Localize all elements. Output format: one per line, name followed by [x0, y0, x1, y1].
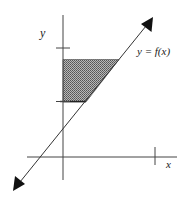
function-label: y = f(x) [136, 45, 170, 58]
y-axis-label: y [39, 26, 46, 40]
shaded-region [63, 60, 119, 103]
coordinate-diagram: y x y = f(x) [0, 0, 188, 198]
x-axis-label: x [165, 158, 171, 170]
function-line [20, 26, 146, 182]
